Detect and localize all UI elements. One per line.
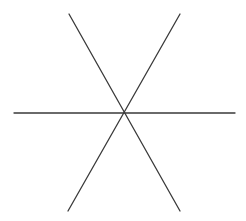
six-pointed-asterisk-diagram [0, 0, 246, 221]
